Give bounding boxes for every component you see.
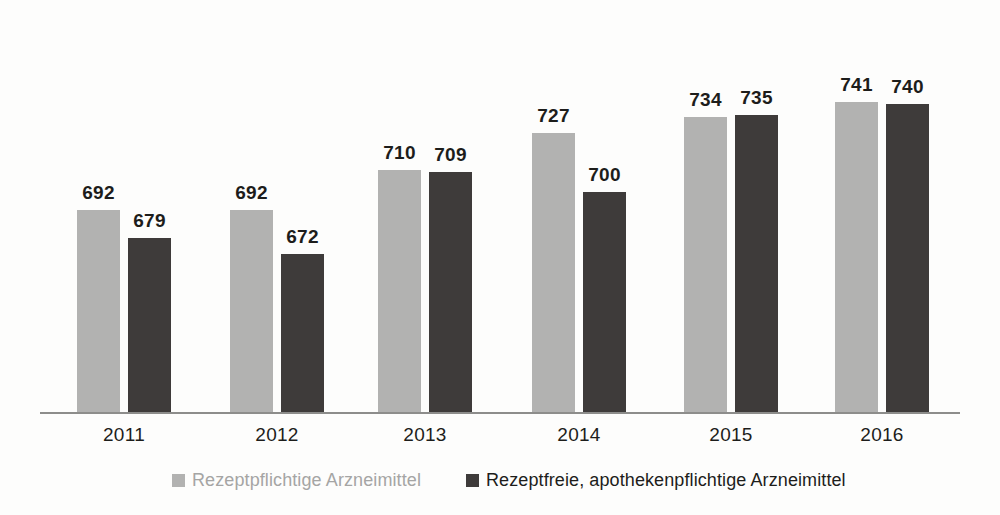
bar-2016-series0 [835, 102, 878, 412]
bar-value-label: 735 [723, 87, 790, 109]
legend-swatch-icon [172, 474, 185, 487]
x-tick-label-2014: 2014 [529, 424, 629, 446]
legend-item-rezeptfreie[interactable]: Rezeptfreie, apothekenpflichtige Arzneim… [466, 470, 846, 491]
x-tick-label-2013: 2013 [375, 424, 475, 446]
plot-area: 692679692672710709727700734735741740 [0, 0, 1000, 430]
bar-value-label: 672 [269, 226, 336, 248]
bar-2011-series1 [128, 238, 171, 412]
bar-2013-series0 [378, 170, 421, 412]
chart-legend: Rezeptpflichtige Arzneimittel Rezeptfrei… [0, 466, 1000, 500]
bar-2014-series0 [532, 133, 575, 412]
x-axis-label-row: 201120122013201420152016 [0, 424, 1000, 458]
x-tick-label-2015: 2015 [681, 424, 781, 446]
bar-chart: 692679692672710709727700734735741740 201… [0, 0, 1000, 515]
legend-item-rezeptpflichtige[interactable]: Rezeptpflichtige Arzneimittel [172, 470, 421, 491]
bar-value-label: 709 [417, 144, 484, 166]
bar-value-label: 692 [218, 182, 285, 204]
x-tick-label-2012: 2012 [227, 424, 327, 446]
bar-value-label: 700 [571, 164, 638, 186]
x-axis-line [40, 412, 960, 414]
bar-2015-series0 [684, 117, 727, 412]
bar-value-label: 679 [116, 210, 183, 232]
legend-item-label: Rezeptpflichtige Arzneimittel [192, 470, 421, 491]
x-tick-label-2011: 2011 [74, 424, 174, 446]
bar-2014-series1 [583, 192, 626, 412]
bar-value-label: 727 [520, 105, 587, 127]
bar-2013-series1 [429, 172, 472, 412]
legend-item-label: Rezeptfreie, apothekenpflichtige Arzneim… [486, 470, 846, 491]
bar-2015-series1 [735, 115, 778, 412]
bar-value-label: 740 [874, 76, 941, 98]
bar-2016-series1 [886, 104, 929, 412]
bar-value-label: 692 [65, 182, 132, 204]
x-tick-label-2016: 2016 [832, 424, 932, 446]
bar-2012-series1 [281, 254, 324, 412]
bar-2012-series0 [230, 210, 273, 412]
bar-2011-series0 [77, 210, 120, 412]
legend-swatch-icon [466, 474, 479, 487]
